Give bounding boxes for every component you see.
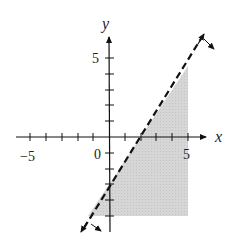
boundary-line-arrow-bottom bbox=[81, 222, 87, 232]
x-tick-label-5: 5 bbox=[183, 147, 190, 162]
shade-direction-arrow-bottom bbox=[91, 224, 101, 231]
x-axis-label: x bbox=[214, 128, 222, 145]
inequality-graph: y x −5 5 5 0 bbox=[0, 0, 230, 249]
x-tick-label-neg5: −5 bbox=[20, 149, 35, 164]
y-tick-label-5: 5 bbox=[92, 51, 99, 66]
boundary-line-arrow-top bbox=[198, 34, 204, 44]
origin-label: 0 bbox=[94, 147, 101, 162]
y-axis-label: y bbox=[100, 15, 110, 33]
shade-direction-arrow-top bbox=[204, 39, 214, 49]
